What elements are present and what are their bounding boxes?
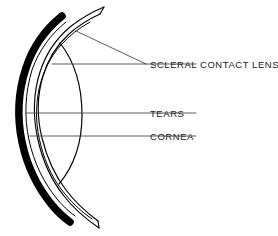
lens-inner-surface	[38, 14, 100, 221]
label-cornea: CORNEA	[150, 131, 194, 142]
label-scleral-contact-lens: SCLERAL CONTACT LENS	[150, 59, 278, 70]
leader-scleral-branch-upper	[76, 31, 146, 64]
label-tears: TEARS	[150, 108, 184, 119]
scleral-lens-diagram: SCLERAL CONTACT LENS TEARS CORNEA	[0, 0, 278, 236]
diagram-canvas: SCLERAL CONTACT LENS TEARS CORNEA	[0, 0, 278, 236]
